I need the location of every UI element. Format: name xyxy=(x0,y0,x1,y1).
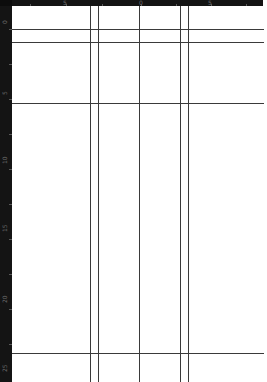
horizontal-guide[interactable] xyxy=(12,29,264,30)
ruler-label: 0 xyxy=(2,20,8,24)
ruler-label: 25 xyxy=(2,364,8,372)
ruler-origin-corner[interactable] xyxy=(0,0,12,6)
horizontal-guide[interactable] xyxy=(12,103,264,104)
vertical-guide[interactable] xyxy=(90,6,91,382)
ruler-label: 10 xyxy=(2,156,8,164)
vertical-guide[interactable] xyxy=(98,6,99,382)
vertical-guide[interactable] xyxy=(180,6,181,382)
horizontal-guide[interactable] xyxy=(12,42,264,43)
ruler-label: 15 xyxy=(2,224,8,232)
horizontal-guide[interactable] xyxy=(12,353,264,354)
vertical-guide[interactable] xyxy=(188,6,189,382)
ruler-label: 5 xyxy=(2,91,8,95)
vertical-ruler[interactable]: 0 5 10 15 20 25 xyxy=(0,6,12,382)
vertical-guide[interactable] xyxy=(139,6,140,382)
ruler-label: 20 xyxy=(2,295,8,303)
